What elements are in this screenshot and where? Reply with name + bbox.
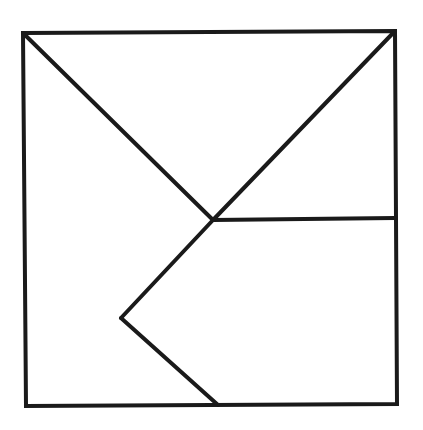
diagonal-top-left-to-center — [23, 33, 213, 220]
center-to-left-vertex — [121, 220, 213, 318]
horizontal-center-to-right — [213, 218, 395, 220]
diagonal-top-right-to-center — [213, 31, 395, 220]
inner-segments — [23, 31, 395, 405]
diagram-canvas — [0, 0, 423, 430]
square-dissection-diagram — [0, 0, 423, 430]
left-vertex-to-bottom — [121, 318, 218, 405]
